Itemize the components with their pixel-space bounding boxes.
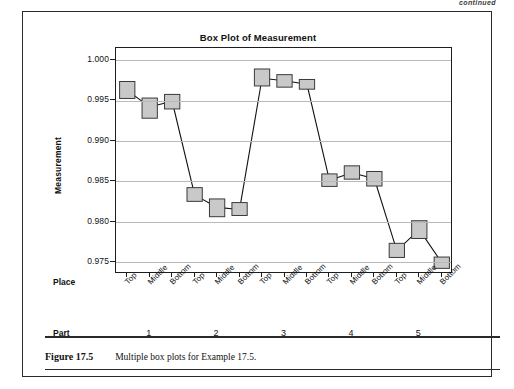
gridline — [116, 101, 451, 102]
gridline — [116, 181, 451, 182]
y-tick-label: 1.000 — [63, 54, 109, 64]
caption-rule-top — [45, 336, 500, 338]
figure-caption-text: Multiple box plots for Example 17.5. — [115, 352, 256, 362]
gridline — [116, 60, 451, 61]
box-plot-box — [120, 82, 135, 99]
y-tick-mark — [110, 140, 115, 141]
box-plot-box — [277, 75, 292, 88]
gridline — [116, 222, 451, 223]
y-axis-title: Measurement — [53, 137, 63, 194]
y-tick-label: 0.980 — [63, 216, 109, 226]
y-tick-mark — [110, 180, 115, 181]
figure-caption: Figure 17.5Multiple box plots for Exampl… — [45, 351, 495, 362]
box-plot-box — [254, 69, 269, 86]
box-plot-svg — [116, 48, 453, 274]
continued-note: continued — [0, 0, 514, 6]
box-plot-box — [389, 243, 404, 257]
box-plot-box — [299, 79, 314, 89]
gridline — [116, 262, 451, 263]
plot-area — [115, 47, 452, 273]
y-tick-mark — [110, 261, 115, 262]
box-plot-box — [367, 171, 382, 186]
chart-title: Box Plot of Measurement — [23, 32, 493, 43]
box-plot-box — [165, 94, 180, 109]
y-tick-mark — [110, 221, 115, 222]
figure-card: Box Plot of Measurement Measurement 1.00… — [22, 11, 492, 377]
place-axis-label: Place — [53, 277, 75, 287]
box-plot-box — [412, 221, 427, 239]
y-tick-label: 0.990 — [63, 135, 109, 145]
y-tick-mark — [110, 59, 115, 60]
caption-rule-bottom — [45, 369, 500, 371]
figure-caption-label: Figure 17.5 — [45, 351, 93, 362]
box-plot-box — [187, 188, 202, 202]
y-tick-label: 0.985 — [63, 175, 109, 185]
y-tick-label: 0.975 — [63, 256, 109, 266]
y-tick-mark — [110, 99, 115, 100]
y-tick-label: 0.995 — [63, 94, 109, 104]
box-plot-box — [232, 203, 247, 216]
box-plot-box — [209, 199, 224, 217]
box-plot-box — [344, 166, 359, 179]
box-plot-box — [322, 174, 337, 187]
gridline — [116, 141, 451, 142]
